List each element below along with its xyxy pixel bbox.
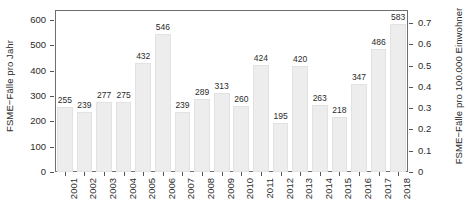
y-tick-text: 400: [30, 66, 46, 76]
y-tick-text: 600: [30, 15, 46, 25]
y-tick-mark-right: [409, 44, 413, 45]
x-tick-mark: [222, 172, 223, 176]
bar-value-label: 424: [247, 54, 275, 63]
bar: [116, 102, 132, 172]
y-tick-mark-right: [409, 66, 413, 67]
bar-value-label: 260: [227, 95, 255, 104]
x-tick-mark: [241, 172, 242, 176]
x-tick-label: 2006: [167, 178, 177, 199]
fsme-cases-bar-chart: FSME−Fälle pro Jahr FSME−Fälle pro 100.0…: [0, 0, 468, 212]
x-tick-mark: [398, 172, 399, 176]
bar-value-label: 195: [267, 112, 295, 121]
bar-value-label: 486: [365, 38, 393, 47]
bar: [312, 105, 328, 172]
y-tick-text: 500: [30, 40, 46, 50]
x-tick-label: 2008: [206, 178, 216, 199]
y-tick-label-right: 0.1: [418, 146, 442, 156]
y-tick-mark-left: [50, 20, 54, 21]
x-tick-mark: [143, 172, 144, 176]
bar: [135, 63, 151, 172]
bar: [233, 106, 249, 172]
x-tick-mark: [261, 172, 262, 176]
bar: [175, 112, 191, 172]
y-tick-label-left: 400: [18, 66, 46, 76]
y-axis-label-right: FSME−Fälle pro 100.000 Einwohner: [452, 0, 466, 172]
x-tick-mark: [359, 172, 360, 176]
bar: [273, 123, 289, 172]
x-tick-mark: [379, 172, 380, 176]
bar: [214, 93, 230, 172]
x-tick-label: 2017: [383, 178, 393, 199]
x-tick-label: 2007: [186, 178, 196, 199]
bar-value-label: 432: [129, 52, 157, 61]
bar: [351, 84, 367, 172]
x-tick-mark: [202, 172, 203, 176]
y-tick-label-right: 0.2: [418, 124, 442, 134]
y-tick-label-right: 0.4: [418, 82, 442, 92]
bar-value-label: 263: [306, 94, 334, 103]
bar: [332, 117, 348, 172]
bar-value-label: 347: [345, 73, 373, 82]
x-tick-mark: [320, 172, 321, 176]
y-tick-mark-right: [409, 108, 413, 109]
y-tick-label-right: 0.3: [418, 103, 442, 113]
y-tick-label-right: 0.5: [418, 61, 442, 71]
x-tick-label: 2003: [108, 178, 118, 199]
y-tick-mark-left: [50, 71, 54, 72]
y-tick-mark-left: [50, 45, 54, 46]
y-tick-label-left: 500: [18, 40, 46, 50]
bar: [96, 102, 112, 172]
y-tick-label-left: 300: [18, 91, 46, 101]
x-tick-mark: [182, 172, 183, 176]
y-tick-label-right: 0: [418, 167, 442, 177]
bar: [77, 112, 93, 172]
x-tick-mark: [104, 172, 105, 176]
bar: [194, 99, 210, 172]
y-tick-text: 0.6: [418, 39, 431, 49]
y-tick-label-left: 0: [18, 167, 46, 177]
x-tick-label: 2011: [265, 178, 275, 198]
y-tick-text: 0.5: [418, 61, 431, 71]
y-tick-label-left: 200: [18, 116, 46, 126]
y-tick-label-right: 0.6: [418, 39, 442, 49]
y-tick-mark-right: [409, 172, 413, 173]
x-tick-label: 2012: [285, 178, 295, 199]
y-tick-mark-right: [409, 87, 413, 88]
bar-value-label: 583: [384, 13, 412, 22]
x-tick-mark: [163, 172, 164, 176]
y-tick-text: 300: [30, 91, 46, 101]
y-tick-mark-left: [50, 147, 54, 148]
x-tick-label: 2002: [88, 178, 98, 199]
y-tick-mark-left: [50, 172, 54, 173]
x-tick-mark: [339, 172, 340, 176]
y-tick-label-right: 0.7: [418, 18, 442, 28]
x-tick-label: 2013: [304, 178, 314, 199]
bar-value-label: 239: [71, 101, 99, 110]
y-tick-mark-right: [409, 129, 413, 130]
y-tick-text: 0: [41, 167, 46, 177]
bar-value-label: 546: [149, 23, 177, 32]
x-tick-label: 2015: [343, 178, 353, 199]
x-tick-mark: [281, 172, 282, 176]
bar-value-label: 275: [110, 91, 138, 100]
y-tick-label-left: 100: [18, 142, 46, 152]
y-tick-text: 0.2: [418, 124, 431, 134]
x-tick-label: 2018: [402, 178, 412, 199]
bar-value-label: 218: [326, 106, 354, 115]
bar-value-label: 420: [286, 55, 314, 64]
bar: [371, 49, 387, 172]
x-tick-mark: [300, 172, 301, 176]
x-tick-label: 2010: [245, 178, 255, 199]
y-tick-text: 0: [418, 167, 423, 177]
bar: [292, 66, 308, 172]
x-tick-label: 2004: [128, 178, 138, 199]
x-tick-label: 2009: [226, 178, 236, 199]
y-axis-label-left: FSME−Fälle pro Jahr: [3, 0, 17, 172]
bars-container: 2552392772754325462392893132604241954202…: [55, 10, 408, 172]
y-tick-text: 0.1: [418, 146, 431, 156]
y-tick-mark-left: [50, 121, 54, 122]
x-tick-label: 2005: [147, 178, 157, 199]
bar: [390, 24, 406, 172]
y-tick-text: 0.3: [418, 103, 431, 113]
y-tick-mark-right: [409, 23, 413, 24]
